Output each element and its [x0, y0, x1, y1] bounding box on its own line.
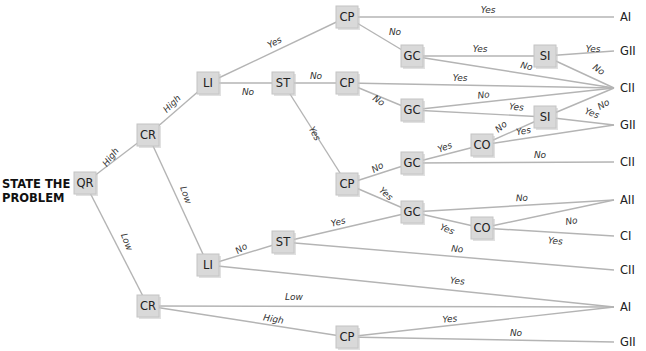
edge-label: No [510, 328, 523, 338]
nodes-layer: QRCRLISTCPGCSICPGCSICPGCCOGCCOSTLICRCP [74, 6, 558, 350]
decision-node-st2: ST [272, 231, 296, 255]
node-label: LI [203, 76, 213, 90]
node-label: CO [473, 138, 490, 152]
edge-cr2-to-cp4 [148, 306, 347, 337]
edge-label: No [371, 93, 387, 108]
decision-node-si2: SI [534, 106, 558, 130]
node-label: CP [340, 76, 355, 90]
decision-node-li2: LI [197, 254, 221, 278]
node-label: CP [340, 10, 355, 24]
decision-node-co1: CO [471, 134, 495, 158]
node-label: ST [276, 235, 291, 249]
edge-label: No [565, 215, 579, 227]
edge-li2-to-o9 [208, 265, 614, 307]
edge-label: Yes [547, 235, 563, 246]
edge-label: Yes [377, 185, 395, 202]
edge-label: No [515, 193, 528, 204]
node-label: ST [276, 76, 291, 90]
edge-label: Yes [508, 101, 524, 113]
node-label: GC [404, 103, 421, 117]
edge-label: High [161, 93, 183, 115]
edge-label: No [534, 150, 547, 160]
edge-label: Yes [438, 222, 456, 237]
decision-node-qr: QR [74, 172, 98, 196]
edge-gc1-to-o3 [412, 56, 614, 88]
edge-label: Yes [449, 275, 465, 286]
edge-label: No [310, 71, 323, 81]
node-label: GC [404, 49, 421, 63]
node-label: GC [404, 205, 421, 219]
node-label: QR [76, 176, 93, 190]
node-label: CP [340, 330, 355, 344]
decision-node-gc1: GC [401, 45, 425, 69]
edge-label: No [591, 62, 607, 77]
decision-node-gc4: GC [401, 201, 425, 225]
edge-st2-to-o8 [283, 242, 614, 270]
edge-label: Yes [586, 44, 601, 54]
decision-node-co2: CO [471, 217, 495, 241]
edge-cp4-to-o10 [347, 337, 614, 342]
decision-node-si1: SI [534, 45, 558, 69]
decision-node-cp2: CP [336, 72, 360, 96]
decision-node-cp4: CP [336, 326, 360, 350]
node-label: CR [140, 128, 156, 142]
decision-node-cr1: CR [137, 124, 161, 148]
edge-label: Yes [515, 125, 532, 137]
outcome-label-ai: AI [620, 10, 631, 24]
outcomes-layer: AIGIICIIGIICIIAIICICIIAIGII [620, 10, 636, 349]
edge-label: No [451, 243, 465, 254]
outcome-label-gii: GII [620, 118, 636, 132]
node-label: CR [140, 299, 156, 313]
decision-node-li1: LI [197, 72, 221, 96]
edge-qr-to-cr2 [85, 183, 148, 306]
outcome-label-cii: CII [620, 81, 635, 95]
decision-node-gc3: GC [401, 152, 425, 176]
outcome-label-aii: AII [620, 193, 635, 207]
edge-label: No [242, 87, 255, 97]
edge-st2-to-gc4 [283, 212, 412, 242]
edge-label: Low [119, 232, 135, 253]
edge-cr1-to-li2 [148, 135, 208, 265]
outcome-label-ai: AI [620, 300, 631, 314]
node-label: CO [473, 221, 490, 235]
outcome-label-ci: CI [620, 229, 631, 243]
edge-label: No [477, 89, 491, 101]
outcome-label-gii: GII [620, 44, 636, 58]
outcome-label-cii: CII [620, 263, 635, 277]
edge-gc3-to-o5 [412, 162, 614, 163]
edge-label: Yes [307, 125, 323, 143]
node-label: GC [404, 156, 421, 170]
edge-label: No [389, 27, 402, 37]
edge-cp4-to-o9 [347, 307, 614, 337]
edge-label: Yes [442, 313, 458, 324]
outcome-label-gii: GII [620, 335, 636, 349]
decision-tree-diagram: HighLowHighLowYesNoYesNoYesNoYesNoNoYesY… [0, 0, 646, 351]
edge-label: Yes [453, 73, 468, 83]
edge-label: Yes [473, 44, 488, 54]
edge-label: Low [285, 292, 304, 302]
node-label: CP [340, 177, 355, 191]
decision-node-st1: ST [272, 72, 296, 96]
node-label: SI [540, 110, 551, 124]
edge-label: No [493, 119, 509, 135]
node-label: LI [203, 258, 213, 272]
outcome-label-cii: CII [620, 155, 635, 169]
edge-label: Yes [330, 215, 347, 228]
edge-gc2-to-si2 [412, 110, 545, 117]
edge-label: No [520, 60, 535, 72]
edge-label: Yes [481, 5, 496, 15]
edge-cp2-to-o3 [347, 83, 614, 88]
decision-node-cp1: CP [336, 6, 360, 30]
edge-cr2-to-o9 [148, 306, 614, 307]
edge-label: Low [178, 185, 194, 206]
problem-title-line1: STATE THE [2, 177, 70, 191]
decision-node-cp3: CP [336, 173, 360, 197]
problem-title-line2: PROBLEM [2, 191, 64, 205]
edge-label: No [234, 241, 250, 256]
decision-node-cr2: CR [137, 295, 161, 319]
decision-node-gc2: GC [401, 99, 425, 123]
node-label: SI [540, 49, 551, 63]
